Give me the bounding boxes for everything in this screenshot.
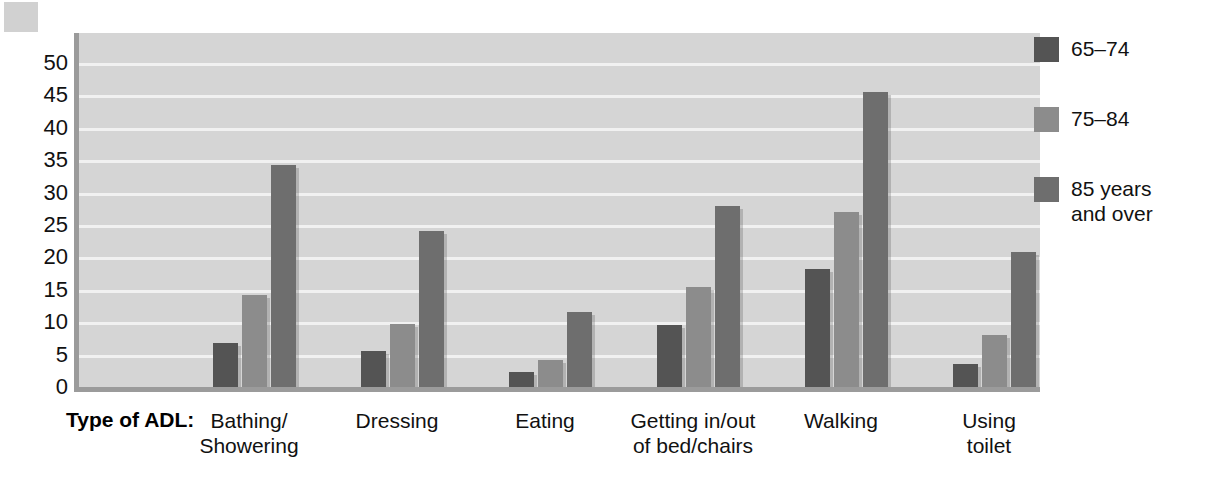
y-axis: 05101520253035404550 bbox=[18, 33, 68, 392]
legend-swatch-icon bbox=[1034, 37, 1059, 62]
bar-body bbox=[538, 360, 563, 387]
bar-body bbox=[686, 287, 711, 387]
bar bbox=[834, 212, 859, 387]
plot-area bbox=[74, 33, 1040, 392]
legend-label: 75–84 bbox=[1071, 106, 1129, 131]
y-tick-label: 25 bbox=[18, 214, 68, 236]
bar bbox=[805, 269, 830, 387]
bar bbox=[419, 231, 444, 387]
y-tick-label: 20 bbox=[18, 246, 68, 268]
x-axis-labels: Type of ADL: Bathing/ShoweringDressingEa… bbox=[0, 404, 1040, 474]
x-axis-category-label: Usingtoilet bbox=[894, 408, 1084, 458]
legend-label: 85 yearsand over bbox=[1071, 176, 1153, 226]
bar-body bbox=[657, 325, 682, 387]
bar-body bbox=[419, 231, 444, 387]
y-tick-label: 50 bbox=[18, 52, 68, 74]
bar bbox=[1011, 252, 1036, 387]
bar bbox=[538, 360, 563, 387]
y-tick-label: 5 bbox=[18, 344, 68, 366]
bar bbox=[361, 351, 386, 387]
legend-item[interactable]: 75–84 bbox=[1034, 106, 1129, 132]
bar-body bbox=[213, 343, 238, 387]
bar-body bbox=[863, 92, 888, 387]
bar-body bbox=[1011, 252, 1036, 387]
bar bbox=[982, 335, 1007, 387]
bar-body bbox=[715, 206, 740, 387]
legend-swatch-icon bbox=[1034, 107, 1059, 132]
legend-item[interactable]: 85 yearsand over bbox=[1034, 176, 1153, 226]
bar bbox=[715, 206, 740, 387]
bar-body bbox=[390, 324, 415, 387]
y-tick-label: 35 bbox=[18, 149, 68, 171]
bars-layer bbox=[79, 33, 1040, 387]
bar bbox=[567, 312, 592, 387]
legend-item[interactable]: 65–74 bbox=[1034, 36, 1129, 62]
bar bbox=[390, 324, 415, 387]
bar bbox=[242, 295, 267, 387]
bar bbox=[509, 372, 534, 387]
scan-artifact bbox=[4, 2, 38, 32]
legend-swatch-icon bbox=[1034, 177, 1059, 202]
bar-body bbox=[361, 351, 386, 387]
bar-body bbox=[805, 269, 830, 387]
y-tick-label: 0 bbox=[18, 376, 68, 398]
bar-body bbox=[242, 295, 267, 387]
bar bbox=[271, 165, 296, 387]
bar-body bbox=[271, 165, 296, 387]
bar-body bbox=[567, 312, 592, 387]
legend-label: 65–74 bbox=[1071, 36, 1129, 61]
y-tick-label: 40 bbox=[18, 117, 68, 139]
y-tick-label: 30 bbox=[18, 182, 68, 204]
bar-body bbox=[953, 364, 978, 387]
bar bbox=[863, 92, 888, 387]
bar-body bbox=[982, 335, 1007, 387]
bar-body bbox=[509, 372, 534, 387]
bar-chart-figure: 05101520253035404550 Type of ADL: Bathin… bbox=[0, 0, 1206, 491]
bar bbox=[213, 343, 238, 387]
bar bbox=[657, 325, 682, 387]
bar bbox=[953, 364, 978, 387]
bar-body bbox=[834, 212, 859, 387]
bar bbox=[686, 287, 711, 387]
y-tick-label: 15 bbox=[18, 279, 68, 301]
y-tick-label: 45 bbox=[18, 84, 68, 106]
y-tick-label: 10 bbox=[18, 311, 68, 333]
